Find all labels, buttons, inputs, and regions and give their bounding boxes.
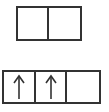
bottom-cell-2 xyxy=(36,72,68,102)
top-cell-2 xyxy=(49,8,80,39)
bottom-row-boxes xyxy=(2,70,101,104)
top-row-boxes xyxy=(16,6,82,41)
bottom-cell-1 xyxy=(4,72,36,102)
up-arrow-icon xyxy=(12,74,26,100)
bottom-cell-3 xyxy=(67,72,99,102)
up-arrow-icon xyxy=(44,74,58,100)
top-cell-1 xyxy=(18,8,49,39)
